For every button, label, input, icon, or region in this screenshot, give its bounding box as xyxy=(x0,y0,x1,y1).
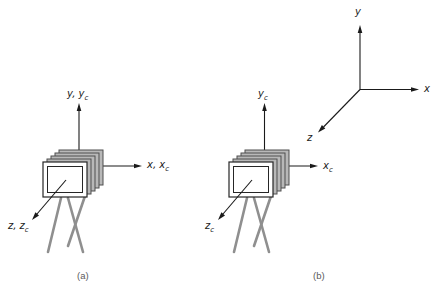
world-x-axis-label: x xyxy=(424,83,430,94)
world-y-axis-label: y xyxy=(355,6,361,17)
world-z-axis-line xyxy=(324,90,361,128)
diagram-svg xyxy=(0,0,441,297)
b-z-axis-label: zc xyxy=(205,220,214,236)
a-x-axis-label: x, xc xyxy=(147,159,169,175)
a-y-axis-arrowhead xyxy=(77,103,82,111)
b-x-axis-arrowhead xyxy=(310,164,318,169)
panel-a-label: (a) xyxy=(77,270,89,281)
b-x-axis-label: xc xyxy=(323,160,333,176)
a-tripod-leg-left xyxy=(48,198,61,252)
world-x-axis-arrowhead xyxy=(411,87,419,92)
a-camera-lens-plane xyxy=(48,167,83,193)
world-frame-axes xyxy=(318,25,419,133)
b-y-axis-label: yc xyxy=(258,88,268,104)
b-camera-lens-plane xyxy=(234,167,269,193)
b-y-axis-arrowhead xyxy=(262,103,267,111)
a-y-axis-label: y, yc xyxy=(67,88,88,104)
a-z-axis-label: z, zc xyxy=(8,220,29,236)
world-y-axis-arrowhead xyxy=(358,25,363,33)
world-z-axis-label: z xyxy=(307,132,312,143)
panel-a-camera-frame xyxy=(32,103,142,252)
a-x-axis-arrowhead xyxy=(134,164,142,169)
panel-b-camera-frame xyxy=(218,103,318,252)
figure-canvas: y, yc x, xc z, zc yc xc zc y x z (a) (b)… xyxy=(0,0,441,297)
figure-caption-clipped: FIGURE 5.10 xyxy=(8,292,318,297)
panel-b-label: (b) xyxy=(313,270,325,281)
b-tripod-leg-left xyxy=(234,198,247,252)
